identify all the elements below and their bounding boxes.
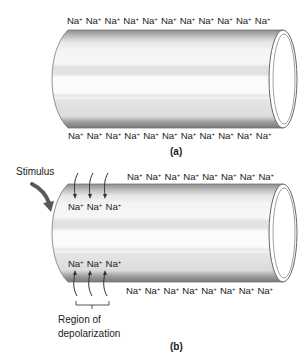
region-label-line1: Region of <box>58 314 101 326</box>
sodium-ions-outside-top-a: Na+Na+Na+Na+Na+Na+Na+Na+Na+Na+Na+ <box>67 14 274 26</box>
sodium-ions-inside-top-b: Na+Na+Na+ <box>68 200 124 212</box>
sodium-ions-outside-top-b: Na+Na+Na+Na+Na+Na+Na+Na+ <box>127 170 277 182</box>
axon-cylinder-a <box>52 30 297 128</box>
panel-a-caption: (a) <box>170 146 182 157</box>
stimulus-label: Stimulus <box>16 166 54 178</box>
region-bracket <box>76 301 109 309</box>
panel-b-caption: (b) <box>170 341 183 352</box>
sodium-ions-outside-bottom-a: Na+Na+Na+Na+Na+Na+Na+Na+Na+Na+Na+ <box>68 129 275 141</box>
sodium-ions-inside-bottom-b: Na+Na+Na+ <box>68 257 124 269</box>
sodium-ions-outside-bottom-b: Na+Na+Na+Na+Na+Na+Na+Na+ <box>126 284 276 296</box>
ion: Na+ <box>67 15 82 26</box>
region-label-line2: depolarization <box>58 328 120 340</box>
stimulus-arrow-icon <box>32 184 54 212</box>
